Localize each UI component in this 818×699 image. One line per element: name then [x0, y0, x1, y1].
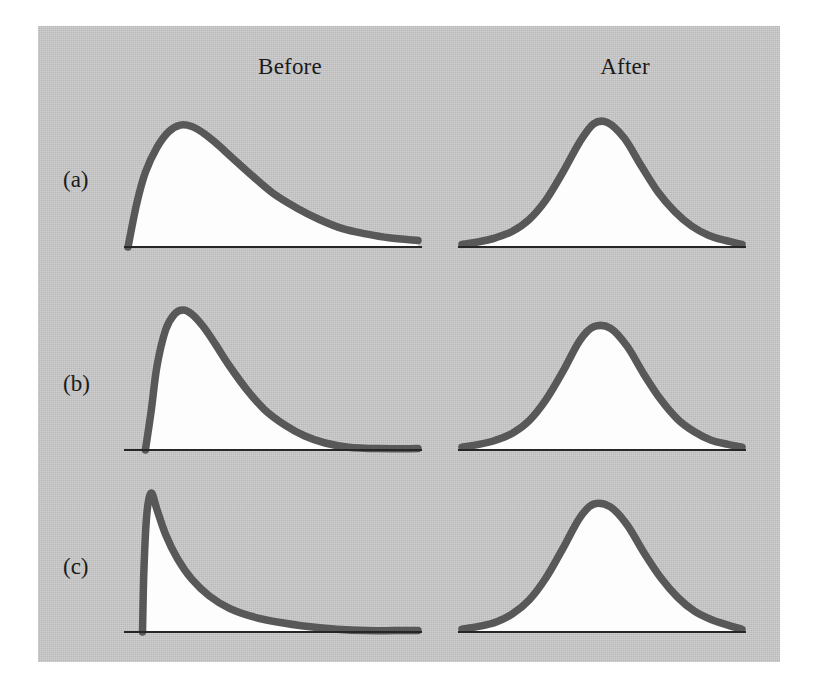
row-label-a: (a) [63, 167, 89, 193]
column-header-before: Before [180, 54, 400, 80]
column-header-after: After [515, 54, 735, 80]
figure-plate-background [38, 26, 780, 662]
row-label-b: (b) [63, 371, 90, 397]
figure-root: Before After (a) (b) (c) [0, 0, 818, 699]
row-label-c: (c) [63, 554, 89, 580]
